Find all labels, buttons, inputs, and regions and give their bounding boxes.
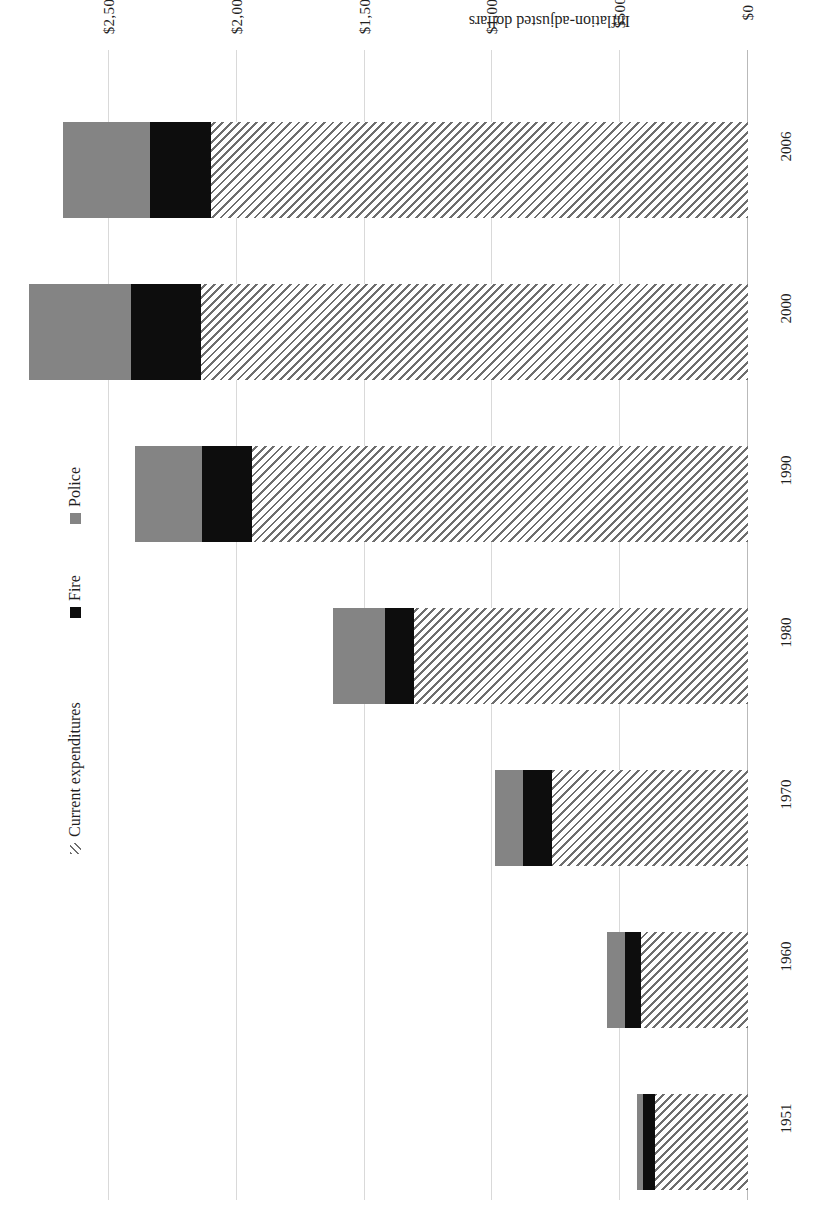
bar-segment-fire-1951[interactable] <box>643 1094 655 1190</box>
chart-legend: Current expenditures Fire Police <box>26 294 66 854</box>
bar-segment-current-1980[interactable] <box>414 608 748 704</box>
legend-item-fire[interactable]: Fire <box>66 575 84 618</box>
bar-segment-fire-1960[interactable] <box>625 932 640 1028</box>
bar-segment-current-1970[interactable] <box>553 770 749 866</box>
category-label-1980: 1980 <box>778 618 795 648</box>
bar-segment-fire-1970[interactable] <box>523 770 552 866</box>
bar-segment-current-1960[interactable] <box>641 932 748 1028</box>
tick-label-1500: $1,500 <box>356 0 373 34</box>
bar-segment-current-1951[interactable] <box>655 1094 748 1190</box>
bar-segment-police-1980[interactable] <box>333 608 385 704</box>
legend-label-police: Police <box>66 467 84 507</box>
value-axis-title: Inflation-adjusted dollars <box>469 12 630 30</box>
bar-segment-police-1990[interactable] <box>135 446 203 542</box>
bar-segment-fire-1980[interactable] <box>385 608 414 704</box>
category-label-1990: 1990 <box>778 456 795 486</box>
bar-segment-police-2006[interactable] <box>63 122 150 218</box>
category-label-2006: 2006 <box>778 132 795 162</box>
legend-label-current-expenditures: Current expenditures <box>66 702 84 837</box>
tick-label-0: $0 <box>740 5 757 21</box>
bar-segment-police-1970[interactable] <box>495 770 523 866</box>
category-label-1951: 1951 <box>778 1104 795 1134</box>
category-label-2000: 2000 <box>778 294 795 324</box>
bar-segment-police-1960[interactable] <box>607 932 625 1028</box>
bar-segment-fire-2006[interactable] <box>150 122 211 218</box>
bar-segment-police-1951[interactable] <box>637 1094 643 1190</box>
legend-item-police[interactable]: Police <box>66 467 84 524</box>
tick-label-2000: $2,000 <box>228 0 245 34</box>
tick-label-2500: $2,500 <box>101 0 118 34</box>
bar-segment-current-2000[interactable] <box>201 284 748 380</box>
legend-swatch-police-icon <box>70 513 81 524</box>
chart-canvas: $0 $500 $1,000 $1,500 $2,000 $2,500 1951… <box>0 0 836 1226</box>
legend-item-current-expenditures[interactable]: Current expenditures <box>66 702 84 854</box>
legend-swatch-fire-icon <box>70 607 81 618</box>
bar-segment-current-1990[interactable] <box>252 446 748 542</box>
legend-swatch-current-expenditures-icon <box>70 843 81 854</box>
rotated-figure-container: $0 $500 $1,000 $1,500 $2,000 $2,500 1951… <box>0 0 836 1226</box>
category-label-1960: 1960 <box>778 942 795 972</box>
legend-label-fire: Fire <box>66 575 84 601</box>
bar-segment-fire-1990[interactable] <box>202 446 252 542</box>
gridline-2500 <box>108 50 109 1200</box>
bar-segment-current-2006[interactable] <box>211 122 748 218</box>
category-label-1970: 1970 <box>778 780 795 810</box>
bar-segment-fire-2000[interactable] <box>131 284 201 380</box>
gridline-2000 <box>236 50 237 1200</box>
plot-area: $0 $500 $1,000 $1,500 $2,000 $2,500 1951… <box>109 50 748 1200</box>
